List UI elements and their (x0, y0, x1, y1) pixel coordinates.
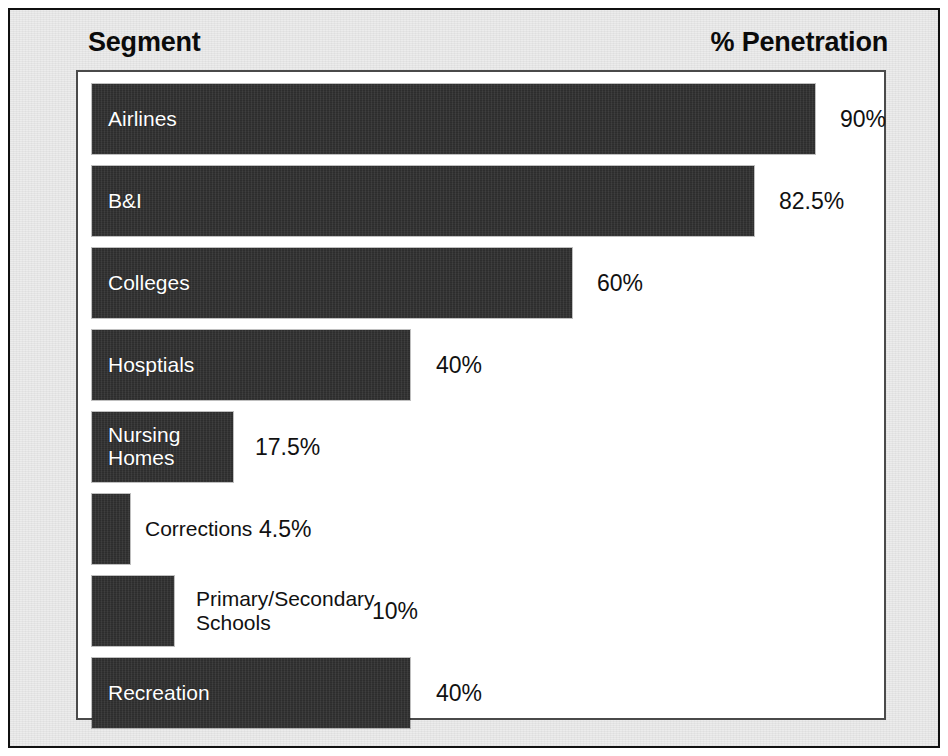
bar-value-label: 40% (436, 658, 482, 728)
bar-value-label: 82.5% (779, 166, 844, 236)
bar-row: Corrections4.5% (78, 494, 884, 564)
bar-category-label: Corrections (145, 494, 252, 564)
bar-category-label: Nursing Homes (108, 412, 180, 482)
bar-category-label: Hosptials (108, 330, 194, 400)
bar-rect (92, 84, 815, 154)
bar-value-label: 60% (597, 248, 643, 318)
bar-value-label: 40% (436, 330, 482, 400)
bar-rect (92, 494, 130, 564)
bar-rect (92, 576, 174, 646)
bar-category-label: Colleges (108, 248, 190, 318)
bar-category-label: Recreation (108, 658, 210, 728)
penetration-column-header: % Penetration (711, 27, 888, 58)
bars-container: Airlines90%B&I82.5%Colleges60%Hosptials4… (78, 72, 884, 718)
segment-column-header: Segment (88, 27, 201, 58)
bar-row: Colleges60% (78, 248, 884, 318)
bar-value-label: 17.5% (255, 412, 320, 482)
bar-category-label: B&I (108, 166, 142, 236)
bar-rect (92, 166, 754, 236)
bar-row: Recreation40% (78, 658, 884, 728)
bar-row: Hosptials40% (78, 330, 884, 400)
chart-header: Segment % Penetration (88, 24, 888, 60)
bar-row: Nursing Homes17.5% (78, 412, 884, 482)
plot-panel: Airlines90%B&I82.5%Colleges60%Hosptials4… (76, 70, 886, 720)
bar-value-label: 10% (372, 576, 418, 646)
bar-row: Primary/Secondary Schools10% (78, 576, 884, 646)
bar-value-label: 4.5% (259, 494, 311, 564)
bar-category-label: Primary/Secondary Schools (196, 576, 375, 646)
bar-value-label: 90% (840, 84, 886, 154)
bar-category-label: Airlines (108, 84, 177, 154)
bar-row: B&I82.5% (78, 166, 884, 236)
bar-row: Airlines90% (78, 84, 884, 154)
penetration-bar-chart-figure: Segment % Penetration Airlines90%B&I82.5… (0, 0, 948, 756)
